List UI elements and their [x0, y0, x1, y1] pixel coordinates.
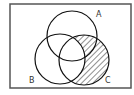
- venn-diagram: A B C: [0, 0, 134, 95]
- set-a-label: A: [96, 10, 102, 19]
- set-b-label: B: [29, 76, 35, 85]
- set-c-label: C: [105, 76, 111, 85]
